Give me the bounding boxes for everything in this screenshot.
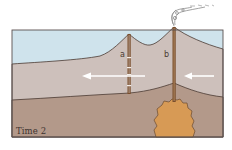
column-label-b: b [164, 50, 169, 59]
conduit-b [173, 27, 176, 102]
smoke-plume [172, 5, 214, 26]
geology-diagram: a b Time 2 [0, 0, 232, 150]
conduit-a [127, 34, 131, 94]
time-label: Time 2 [16, 126, 46, 136]
column-label-a: a [120, 50, 125, 59]
